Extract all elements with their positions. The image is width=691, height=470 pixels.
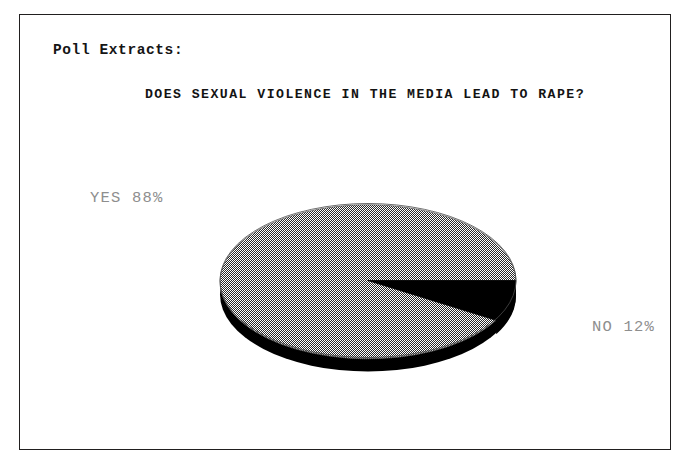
pie-chart xyxy=(210,193,530,383)
poll-extract-frame: Poll Extracts: DOES SEXUAL VIOLENCE IN T… xyxy=(19,14,671,450)
page-title: Poll Extracts: xyxy=(53,41,183,59)
pie-label-no: NO 12% xyxy=(592,318,655,336)
screenshot-canvas: Poll Extracts: DOES SEXUAL VIOLENCE IN T… xyxy=(0,0,691,470)
chart-title: DOES SEXUAL VIOLENCE IN THE MEDIA LEAD T… xyxy=(39,86,691,103)
pie-chart-graphic xyxy=(210,193,530,383)
pie-label-yes: YES 88% xyxy=(90,189,164,207)
